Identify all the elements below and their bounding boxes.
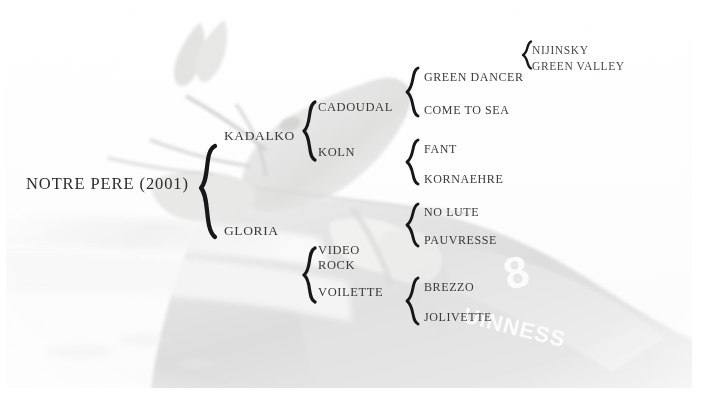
node-come-to-sea: COME TO SEA	[424, 104, 510, 117]
brace-notre-pere	[196, 144, 222, 240]
node-pauvresse: PAUVRESSE	[424, 234, 497, 247]
node-green-dancer: GREEN DANCER	[424, 71, 524, 84]
node-no-lute: NO LUTE	[424, 206, 479, 219]
brace-koln	[404, 138, 422, 186]
node-video-rock-line1: VIDEO	[318, 243, 360, 258]
node-cadoudal: CADOUDAL	[318, 101, 393, 114]
node-fant: FANT	[424, 143, 457, 156]
brace-video-rock	[404, 202, 422, 248]
brace-voilette	[404, 276, 422, 326]
node-video-rock: VIDEO ROCK	[318, 243, 360, 272]
node-notre-pere: NOTRE PERE (2001)	[26, 175, 189, 192]
brace-gloria	[300, 246, 320, 304]
node-jolivette: JOLIVETTE	[424, 311, 492, 324]
node-video-rock-line2: ROCK	[318, 258, 360, 273]
pedigree-figure: 8 UINNESS	[0, 0, 704, 408]
brace-cadoudal	[404, 66, 422, 118]
node-kornaehre: KORNAEHRE	[424, 173, 503, 186]
node-brezzo: BREZZO	[424, 281, 474, 294]
node-gloria: GLORIA	[224, 224, 279, 238]
node-voilette: VOILETTE	[318, 286, 383, 299]
node-green-valley: GREEN VALLEY	[532, 60, 625, 72]
node-nijinsky: NIJINSKY	[532, 44, 589, 56]
brace-kadalko	[300, 100, 320, 162]
node-koln: KOLN	[318, 146, 355, 159]
node-kadalko: KADALKO	[224, 129, 295, 143]
